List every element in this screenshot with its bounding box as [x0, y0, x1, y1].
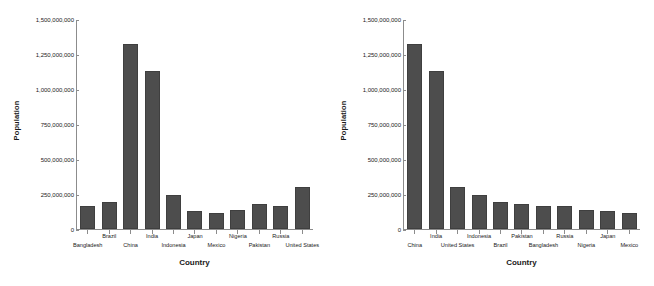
bar: [622, 213, 637, 229]
y-tick-label: 500,000,000: [368, 157, 403, 163]
bar: [123, 44, 138, 229]
bar: [600, 211, 615, 229]
plot-area-right: 1,500,000,0001,250,000,0001,000,000,0007…: [403, 20, 640, 230]
x-tick-label: Russia: [272, 234, 289, 240]
bar: [166, 195, 181, 229]
y-tick-label: 750,000,000: [368, 122, 403, 128]
x-tick-label: United States: [441, 243, 475, 249]
x-tick-label: Japan: [600, 234, 615, 240]
x-axis-title-right: Country: [403, 258, 640, 267]
bar: [579, 210, 594, 229]
x-tick-label: Japan: [187, 234, 202, 240]
x-tick-label: Bangladesh: [529, 243, 559, 249]
dual-bar-chart-figure: Population 1,500,000,0001,250,000,0001,0…: [0, 0, 654, 286]
bar: [536, 206, 551, 229]
bar: [429, 71, 444, 229]
bar: [450, 187, 465, 229]
bar: [145, 71, 160, 229]
y-tick-label: 250,000,000: [41, 192, 76, 198]
bar: [472, 195, 487, 229]
bar: [209, 213, 224, 229]
x-tick-label: Indonesia: [467, 234, 491, 240]
x-tick-label: China: [407, 243, 422, 249]
bar: [252, 204, 267, 229]
chart-panel-right: Population 1,500,000,0001,250,000,0001,0…: [327, 0, 654, 286]
x-tick-label: Bangladesh: [73, 243, 103, 249]
bar: [102, 202, 117, 229]
plot-area-left: 1,500,000,0001,250,000,0001,000,000,0007…: [76, 20, 313, 230]
x-tick-label: Nigeria: [229, 234, 247, 240]
x-tick-label: China: [123, 243, 138, 249]
y-tick-label: 250,000,000: [368, 192, 403, 198]
y-tick-label: 500,000,000: [41, 157, 76, 163]
x-tick-label: Nigeria: [577, 243, 595, 249]
y-axis-title-right: Population: [335, 0, 353, 240]
y-tick-label: 1,250,000,000: [36, 52, 76, 58]
y-axis-title-text-left: Population: [13, 100, 22, 140]
bar-series-left: [77, 20, 313, 229]
bar: [407, 44, 422, 229]
chart-panel-left: Population 1,500,000,0001,250,000,0001,0…: [0, 0, 327, 286]
bar: [295, 187, 310, 229]
bar: [187, 211, 202, 229]
y-tick-label: 1,000,000,000: [363, 87, 403, 93]
bar: [273, 206, 288, 229]
x-tick-label: India: [430, 234, 442, 240]
bar: [514, 204, 529, 229]
y-tick-label: 750,000,000: [41, 122, 76, 128]
x-tick-label: Brazil: [494, 243, 508, 249]
bar: [80, 206, 95, 229]
x-tick-label: Mexico: [620, 243, 638, 249]
y-tick-label: 1,000,000,000: [36, 87, 76, 93]
y-axis-title-text-right: Population: [340, 100, 349, 140]
x-axis-category-labels-left: BangladeshBrazilChinaIndiaIndonesiaJapan…: [77, 234, 313, 256]
bar: [557, 206, 572, 229]
x-axis-category-labels-right: ChinaIndiaUnited StatesIndonesiaBrazilPa…: [404, 234, 640, 256]
y-tick-label: 1,500,000,000: [36, 17, 76, 23]
x-tick-label: Pakistan: [511, 234, 532, 240]
bar-series-right: [404, 20, 640, 229]
x-tick-label: Pakistan: [249, 243, 270, 249]
bar: [493, 202, 508, 229]
x-tick-label: India: [146, 234, 158, 240]
x-tick-label: Indonesia: [161, 243, 185, 249]
y-axis-title-left: Population: [8, 0, 26, 240]
x-axis-title-left: Country: [76, 258, 313, 267]
x-tick-label: Brazil: [102, 234, 116, 240]
x-tick-label: United States: [285, 243, 319, 249]
bar: [230, 210, 245, 229]
x-tick-label: Russia: [556, 234, 573, 240]
y-tick-label: 1,500,000,000: [363, 17, 403, 23]
y-tick-label: 1,250,000,000: [363, 52, 403, 58]
x-tick-label: Mexico: [208, 243, 226, 249]
